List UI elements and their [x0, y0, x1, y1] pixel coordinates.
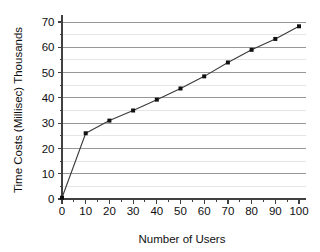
- y-axis-tick-label: 10: [42, 168, 55, 180]
- data-point-marker: [297, 24, 301, 28]
- x-axis-tick-label: 0: [59, 205, 65, 217]
- x-axis-tick-label: 70: [222, 205, 235, 217]
- chart-container: 0102030405060708090100 010203040506070 N…: [0, 0, 320, 252]
- y-axis-tick-label: 60: [42, 41, 55, 53]
- data-point-marker: [179, 87, 183, 91]
- y-axis-tick-label: 40: [42, 92, 55, 104]
- data-point-marker: [155, 98, 159, 102]
- x-axis-tick-label: 10: [79, 205, 92, 217]
- data-point-marker: [202, 74, 206, 78]
- y-axis-title-group: Time Costs (Millisec) Thousands: [12, 27, 24, 193]
- data-point-marker: [273, 37, 277, 41]
- x-axis-tick-label: 60: [198, 205, 211, 217]
- line-chart: 0102030405060708090100 010203040506070 N…: [0, 0, 320, 252]
- y-axis-tick-label: 20: [42, 143, 55, 155]
- x-axis-title-group: Number of Users: [139, 233, 226, 245]
- data-point-marker: [107, 119, 111, 123]
- data-point-marker: [60, 196, 64, 200]
- y-axis-tick-label: 50: [42, 67, 55, 79]
- data-point-marker: [84, 131, 88, 135]
- x-axis-tick-label: 80: [245, 205, 258, 217]
- x-axis-tick-label: 40: [150, 205, 163, 217]
- data-point-marker: [131, 109, 135, 113]
- x-axis-tick-label: 20: [103, 205, 116, 217]
- x-axis-tick-label: 100: [289, 205, 308, 217]
- data-point-marker: [250, 48, 254, 52]
- y-axis-title: Time Costs (Millisec) Thousands: [12, 27, 24, 193]
- y-axis-tick-label: 70: [42, 16, 55, 28]
- x-axis-title: Number of Users: [139, 233, 226, 245]
- x-axis-tick-label: 90: [269, 205, 282, 217]
- data-point-marker: [226, 60, 230, 64]
- y-axis-tick-label: 30: [42, 117, 55, 129]
- y-axis-tick-label: 0: [48, 193, 54, 205]
- x-axis-tick-label: 30: [127, 205, 140, 217]
- x-axis-tick-label: 50: [174, 205, 187, 217]
